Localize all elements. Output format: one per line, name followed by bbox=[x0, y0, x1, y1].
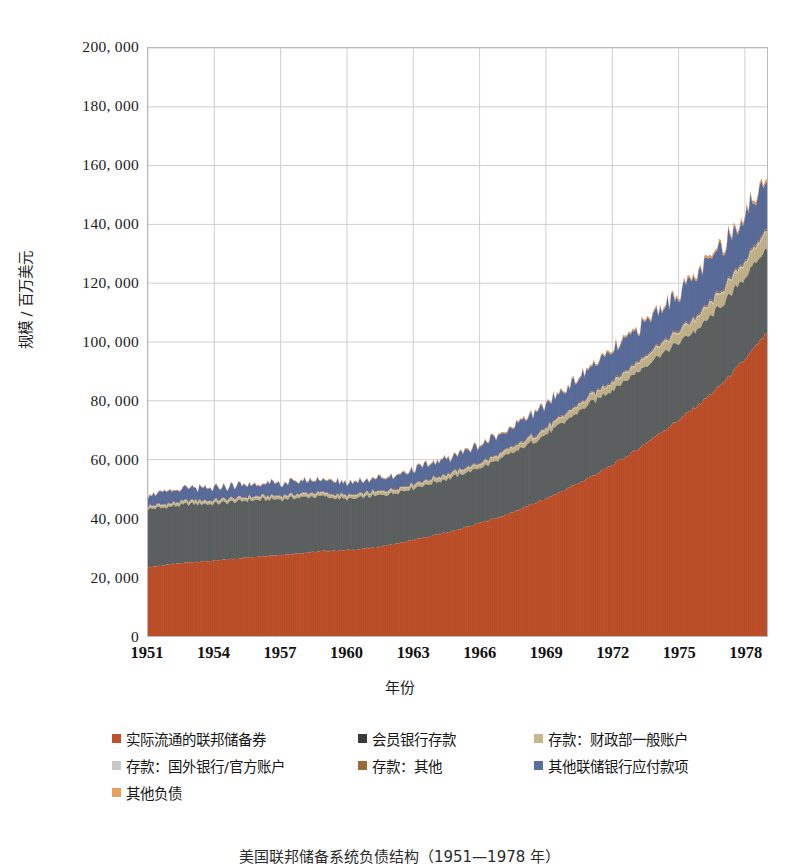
y-tick-label: 120, 000 bbox=[82, 274, 139, 292]
y-tick-label: 200, 000 bbox=[82, 38, 139, 56]
y-tick-label: 140, 000 bbox=[82, 215, 139, 233]
x-tick-label: 1954 bbox=[197, 643, 230, 663]
legend-swatch-icon bbox=[534, 761, 543, 770]
legend-swatch-icon bbox=[358, 761, 367, 770]
legend-item[interactable]: 其他联储银行应付款项 bbox=[534, 755, 688, 776]
x-tick-label: 1969 bbox=[530, 643, 563, 663]
x-tick-label: 1978 bbox=[729, 643, 762, 663]
legend-item[interactable]: 存款：国外银行/官方账户 bbox=[112, 755, 285, 776]
legend-label: 存款：其他 bbox=[372, 755, 442, 776]
x-tick-label: 1966 bbox=[463, 643, 496, 663]
y-tick-label: 60, 000 bbox=[90, 451, 139, 469]
y-tick-label: 80, 000 bbox=[90, 392, 139, 410]
y-tick-label: 40, 000 bbox=[90, 510, 139, 528]
legend-swatch-icon bbox=[358, 734, 367, 743]
x-tick-label: 1972 bbox=[596, 643, 629, 663]
y-tick-label: 20, 000 bbox=[90, 569, 139, 587]
legend-item[interactable]: 其他负债 bbox=[112, 782, 182, 803]
stacked-area-series bbox=[148, 48, 767, 636]
legend-item[interactable]: 存款：其他 bbox=[358, 755, 442, 776]
legend-row: 其他负债 bbox=[112, 782, 788, 809]
legend-label: 其他负债 bbox=[126, 782, 182, 803]
legend-item[interactable]: 会员银行存款 bbox=[358, 728, 456, 749]
legend-item[interactable]: 实际流通的联邦储备券 bbox=[112, 728, 266, 749]
x-tick-label: 1963 bbox=[397, 643, 430, 663]
legend-item[interactable]: 存款：财政部一般账户 bbox=[534, 728, 688, 749]
x-axis-tick-labels: 1951195419571960196319661969197219751978 bbox=[147, 643, 768, 669]
chart-legend: 实际流通的联邦储备券会员银行存款存款：财政部一般账户存款：国外银行/官方账户存款… bbox=[112, 728, 788, 809]
x-tick-label: 1975 bbox=[663, 643, 696, 663]
x-tick-label: 1960 bbox=[330, 643, 363, 663]
legend-swatch-icon bbox=[112, 761, 121, 770]
x-tick-label: 1957 bbox=[264, 643, 297, 663]
y-tick-label: 180, 000 bbox=[82, 97, 139, 115]
x-tick-label: 1951 bbox=[131, 643, 164, 663]
legend-swatch-icon bbox=[534, 734, 543, 743]
legend-label: 其他联储银行应付款项 bbox=[548, 755, 688, 776]
plot-area bbox=[147, 47, 768, 637]
legend-label: 存款：国外银行/官方账户 bbox=[126, 755, 285, 776]
y-tick-label: 160, 000 bbox=[82, 156, 139, 174]
x-axis-title: 年份 bbox=[0, 676, 799, 697]
y-tick-label: 100, 000 bbox=[82, 333, 139, 351]
legend-row: 存款：国外银行/官方账户存款：其他其他联储银行应付款项 bbox=[112, 755, 788, 782]
legend-swatch-icon bbox=[112, 734, 121, 743]
legend-row: 实际流通的联邦储备券会员银行存款存款：财政部一般账户 bbox=[112, 728, 788, 755]
legend-label: 会员银行存款 bbox=[372, 728, 456, 749]
legend-label: 实际流通的联邦储备券 bbox=[126, 728, 266, 749]
legend-swatch-icon bbox=[112, 788, 121, 797]
y-axis-tick-labels: 200, 000180, 000160, 000140, 000120, 000… bbox=[0, 47, 139, 637]
chart-figure: 规模 / 百万美元 200, 000180, 000160, 000140, 0… bbox=[0, 0, 799, 868]
legend-label: 存款：财政部一般账户 bbox=[548, 728, 688, 749]
figure-caption: 美国联邦储备系统负债结构（1951—1978 年） bbox=[0, 845, 799, 866]
